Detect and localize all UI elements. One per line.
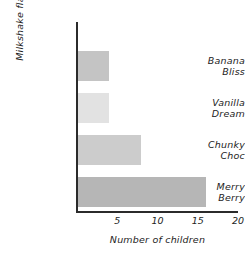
x-axis-title: Number of children [77, 234, 238, 245]
category-label-line1: Merry [175, 181, 245, 192]
x-tick-label-20: 20 [225, 215, 245, 226]
category-label-line2: Dream [175, 108, 245, 119]
category-label-line1: Vanilla [175, 97, 245, 108]
x-tick-label-10: 10 [145, 215, 171, 226]
category-label-merry-berry: Merry Berry [175, 181, 245, 203]
bar-chunky-choc [77, 135, 141, 165]
category-label-line2: Berry [175, 192, 245, 203]
bar-chart: Banana Bliss Vanilla Dream Chunky Choc M… [0, 0, 245, 256]
bar-banana-bliss [77, 51, 109, 81]
x-tick-label-15: 15 [185, 215, 211, 226]
x-tick-label-5: 5 [104, 215, 130, 226]
category-label-banana-bliss: Banana Bliss [175, 55, 245, 77]
y-axis-line [76, 22, 78, 212]
x-axis-line [76, 211, 238, 213]
bar-vanilla-dream [77, 93, 109, 123]
category-label-vanilla-dream: Vanilla Dream [175, 97, 245, 119]
category-label-line1: Banana [175, 55, 245, 66]
category-label-line2: Choc [175, 150, 245, 161]
category-label-line1: Chunky [175, 139, 245, 150]
category-label-chunky-choc: Chunky Choc [175, 139, 245, 161]
category-label-line2: Bliss [175, 66, 245, 77]
y-axis-title: Milkshake flavors [14, 0, 25, 78]
